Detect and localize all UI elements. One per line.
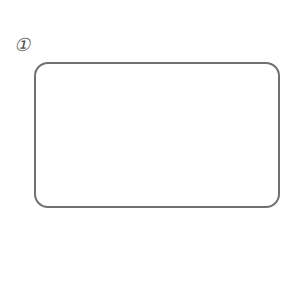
figure-label: ① xyxy=(14,36,30,54)
rounded-rectangle xyxy=(34,62,280,208)
